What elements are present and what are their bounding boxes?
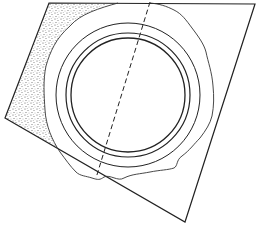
rough-edge	[44, 3, 214, 179]
ring-outer	[56, 23, 200, 167]
ring-middle	[66, 33, 190, 157]
ring-inner	[71, 38, 185, 152]
diagram-canvas	[0, 0, 261, 231]
